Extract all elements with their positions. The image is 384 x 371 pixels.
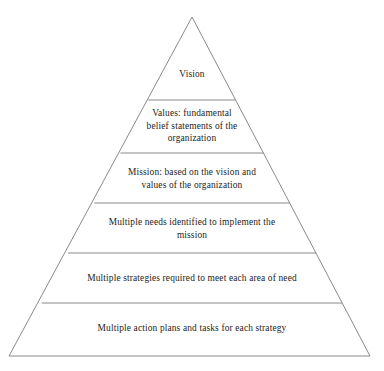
pyramid-outline-svg: [0, 0, 384, 371]
pyramid-outline: [9, 17, 370, 356]
pyramid-diagram-canvas: Vision Values: fundamental belief statem…: [0, 0, 384, 371]
